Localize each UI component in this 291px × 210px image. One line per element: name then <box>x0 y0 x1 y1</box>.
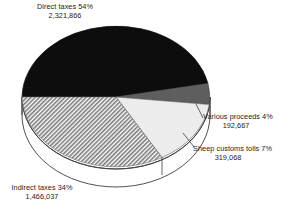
pie-slices <box>22 26 210 167</box>
pie-chart-figure: Direct taxes 54% 2,321,866 Indirect taxe… <box>0 0 291 210</box>
slice-label-indirect-taxes-value: 1,466,037 <box>2 192 82 201</box>
slice-label-indirect-taxes-name: Indirect taxes 34% <box>12 183 73 192</box>
slice-label-direct-taxes-name: Direct taxes 54% <box>37 2 93 11</box>
slice-label-sheep-customs-tolls-value: 319,068 <box>193 153 291 162</box>
slice-label-direct-taxes: Direct taxes 54% 2,321,866 <box>26 2 104 21</box>
slice-label-indirect-taxes: Indirect taxes 34% 1,466,037 <box>2 183 82 202</box>
slice-label-direct-taxes-value: 2,321,866 <box>26 11 104 20</box>
slice-label-various-proceeds-value: 192,667 <box>203 121 291 130</box>
slice-label-various-proceeds: Various proceeds 4% 192,667 <box>203 112 291 131</box>
slice-label-sheep-customs-tolls: Sheep customs tolls 7% 319,068 <box>193 144 291 163</box>
slice-label-sheep-customs-tolls-name: Sheep customs tolls 7% <box>193 144 272 153</box>
slice-label-various-proceeds-name: Various proceeds 4% <box>203 112 273 121</box>
pie-slice-direct-taxes[interactable] <box>22 26 208 97</box>
pie-chart-graphic <box>0 0 291 210</box>
